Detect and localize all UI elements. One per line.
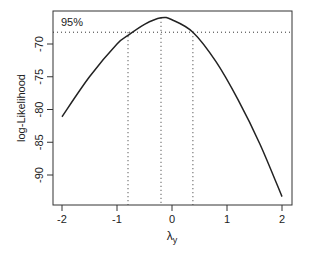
- y-axis-label: log-Likelihood: [15, 74, 27, 142]
- y-tick-label: -75: [33, 69, 45, 85]
- x-tick-label: 1: [224, 213, 230, 225]
- x-tick-label: -2: [57, 213, 67, 225]
- loglik-curve: [62, 17, 282, 196]
- y-tick-label: -70: [33, 36, 45, 52]
- x-tick-label: 2: [279, 213, 285, 225]
- boxcox-loglik-chart: -2-1012 -70-75-80-85-90 95% λy log-Likel…: [0, 0, 309, 256]
- x-axis: -2-1012: [57, 205, 285, 225]
- x-tick-label: 0: [169, 213, 175, 225]
- plot-area: [53, 17, 292, 205]
- x-tick-label: -1: [112, 213, 122, 225]
- y-tick-label: -90: [33, 167, 45, 183]
- plot-frame: [53, 11, 292, 205]
- y-axis: -70-75-80-85-90: [33, 36, 53, 183]
- ci-label: 95%: [61, 16, 83, 28]
- x-axis-label-subscript: y: [173, 235, 178, 245]
- y-tick-label: -80: [33, 102, 45, 118]
- x-axis-label: λy: [167, 229, 178, 245]
- y-tick-label: -85: [33, 134, 45, 150]
